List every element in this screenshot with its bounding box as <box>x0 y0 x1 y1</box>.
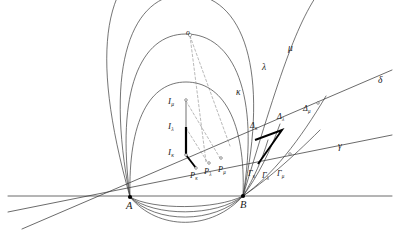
dashed-center-to-foot-1 <box>190 36 206 162</box>
arc-outer-left <box>107 0 168 197</box>
gamma-label-kappa-subscript: κ <box>253 173 256 179</box>
bold-right-angle-marker <box>255 130 282 164</box>
segment-label-i-mu-subscript: μ <box>171 101 174 107</box>
arc-center-marker-label-base: o <box>186 28 190 37</box>
curve-label-delta: δ <box>378 76 382 86</box>
curve-label-kappa-base: κ <box>236 87 241 97</box>
figure-canvas <box>0 0 400 233</box>
foot-label-p-kappa-subscript: κ <box>195 175 198 181</box>
straight-lines-group <box>8 70 392 229</box>
gamma-label-kappa: Γκ <box>248 170 255 179</box>
foot-label-p-lambda: Pλ <box>204 168 211 177</box>
arc-lower-2 <box>130 196 243 212</box>
bold-foot-segment <box>186 155 196 168</box>
curve-label-kappa: κ <box>236 88 241 98</box>
gamma-label-lambda: Γλ <box>262 172 269 181</box>
point-a-label: A <box>126 201 132 212</box>
curve-label-gamma: γ <box>338 142 342 152</box>
marker-delta-mu <box>317 102 320 105</box>
geometry-figure: ABoκλμδγIμIλIκPκPλPμΔκΔλΔμΓκΓλΓμ <box>0 0 400 233</box>
curve-label-mu-base: μ <box>288 43 293 53</box>
foot-label-p-mu-subscript: μ <box>223 169 226 175</box>
dashed-center-to-foot-2 <box>190 36 230 146</box>
point-a-dot <box>128 195 132 199</box>
base-point-dots-group <box>128 194 245 199</box>
foot-label-p-kappa: Pκ <box>190 172 198 181</box>
segment-label-i-lambda: Iλ <box>168 122 174 132</box>
curve-label-mu: μ <box>288 44 293 54</box>
arc-right-gamma <box>243 130 320 196</box>
delta-label-mu-subscript: μ <box>308 108 311 114</box>
point-a-label-base: A <box>126 200 132 211</box>
foot-label-p-mu: Pμ <box>218 166 226 175</box>
marker-p-kappa <box>195 167 198 170</box>
delta-label-lambda-subscript: λ <box>282 116 284 122</box>
segment-label-i-mu: Iμ <box>168 97 174 107</box>
foot-label-p-lambda-subscript: λ <box>209 171 211 177</box>
marker-i-top <box>185 99 188 102</box>
arc-lambda <box>126 34 248 197</box>
segment-label-i-kappa-subscript: κ <box>171 152 174 158</box>
bold-marker-group <box>186 130 282 168</box>
point-b-dot <box>241 194 245 198</box>
gamma-label-kappa-base: Γ <box>248 169 253 178</box>
dashed-i-to-p-3 <box>186 101 220 158</box>
marker-p-mu <box>220 157 223 160</box>
arc-outer-right <box>243 0 330 196</box>
line-gamma <box>8 135 392 212</box>
delta-label-kappa-subscript: κ <box>255 125 258 131</box>
arc-right-delta <box>243 96 326 196</box>
curve-label-lambda: λ <box>262 63 266 73</box>
gamma-label-lambda-subscript: λ <box>267 175 269 181</box>
lower-arcs-group <box>130 196 243 222</box>
gamma-label-mu-subscript: μ <box>282 173 285 179</box>
point-markers-group <box>185 99 320 170</box>
segment-label-i-kappa: Iκ <box>168 148 174 158</box>
segment-label-i-lambda-subscript: λ <box>171 126 174 132</box>
point-b-label-base: B <box>240 199 246 210</box>
curve-label-lambda-base: λ <box>262 62 266 72</box>
curve-label-gamma-base: γ <box>338 141 342 151</box>
arc-center-marker-label: o <box>186 29 190 37</box>
delta-label-lambda: Δλ <box>277 113 284 122</box>
gamma-label-lambda-base: Γ <box>262 171 267 180</box>
marker-i-bottom <box>185 154 188 157</box>
gamma-label-mu: Γμ <box>277 170 284 179</box>
right-arcs-group <box>243 96 326 196</box>
curve-label-delta-base: δ <box>378 75 382 85</box>
point-b-label: B <box>240 200 246 211</box>
marker-p-lambda <box>208 162 211 165</box>
delta-label-kappa: Δκ <box>250 122 257 131</box>
gamma-label-mu-base: Γ <box>277 169 282 178</box>
delta-label-mu: Δμ <box>303 105 311 114</box>
dashed-construction-group <box>186 36 230 168</box>
marker-gamma-mu <box>289 153 292 156</box>
